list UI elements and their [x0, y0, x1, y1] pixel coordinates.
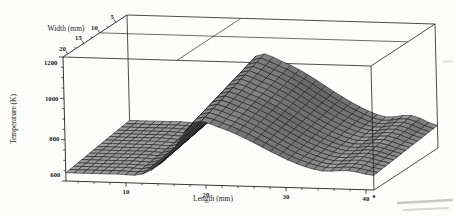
temperature-tick-label: 1000 [45, 95, 59, 102]
width-tick-label: 20 [59, 45, 66, 52]
temperature-tick-label: 800 [49, 135, 60, 142]
length-tick-label: 10 [123, 188, 130, 195]
width-tick-label: 15 [75, 34, 82, 41]
surface-mesh [66, 54, 438, 176]
width-axis-label: Width (mm) [21, 25, 111, 33]
surface-plot-figure: 12001000800600201510510203040 Length (mm… [0, 0, 454, 218]
temperature-tick-label: 600 [50, 171, 61, 178]
temperature-axis-label: Temperature (K) [10, 94, 18, 144]
temperature-tick-label: 1200 [44, 59, 58, 66]
width-tick-label: 5 [110, 13, 114, 20]
length-axis-label: Length (mm) [158, 195, 268, 203]
length-tick-label: 40 [363, 195, 370, 202]
length-tick-label: 30 [283, 193, 290, 200]
